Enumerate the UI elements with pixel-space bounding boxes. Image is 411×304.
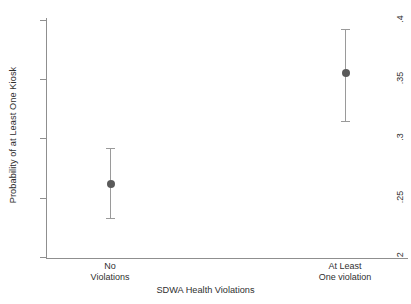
x-axis-line [46,258,408,259]
y-tick-label-0.4: .4 [389,14,411,24]
chart-figure: Probability of at Least One Kiosk .4 .35… [0,0,411,304]
y-tick-text: .4 [395,15,405,23]
data-point-marker [107,180,115,188]
y-tick-label-0.3: .3 [389,132,411,142]
error-bar-cap-upper [106,148,115,149]
x-tick-line1: At Least [290,261,400,272]
x-tick-line2: One violation [290,272,400,283]
y-tick-label-0.2: .2 [389,251,411,261]
y-tick-text: .3 [395,133,405,141]
y-tick-text: .25 [395,191,405,204]
y-tick-label-0.25: .25 [389,192,411,202]
error-bar-cap-lower [106,218,115,219]
y-axis-line [46,18,47,259]
x-tick-line1: No [55,261,165,272]
error-bar-cap-upper [341,29,350,30]
x-tick-label-no-violations: No Violations [55,261,165,283]
x-tick-label-at-least-one-violation: At Least One violation [290,261,400,283]
x-axis-title: SDWA Health Violations [0,285,411,295]
y-axis-title: Probability of at Least One Kiosk [0,0,26,270]
y-axis-title-text: Probability of at Least One Kiosk [8,67,18,204]
error-bar-cap-lower [341,121,350,122]
data-point-marker [342,69,350,77]
y-tick-label-0.35: .35 [389,73,411,83]
y-tick-text: .35 [395,72,405,85]
error-bar-line [110,148,111,218]
error-bar-line [345,29,346,120]
x-tick-line2: Violations [55,272,165,283]
